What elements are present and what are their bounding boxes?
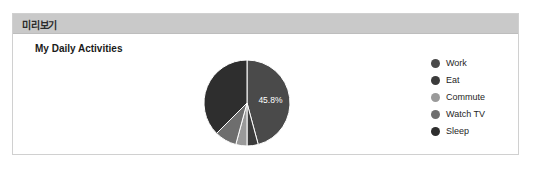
legend-swatch-icon — [431, 127, 440, 136]
pie-chart: 45.8% — [191, 53, 303, 153]
legend-item-label: Sleep — [446, 127, 469, 136]
chart-legend: WorkEatCommuteWatch TVSleep — [431, 55, 526, 140]
legend-item-label: Work — [446, 59, 467, 68]
screenshot-root: 미리보기 My Daily Activities 45.8% WorkEatCo… — [0, 0, 533, 170]
pie-chart-svg: 45.8% — [191, 53, 303, 153]
legend-swatch-icon — [431, 59, 440, 68]
panel-body: My Daily Activities 45.8% WorkEatCommute… — [13, 35, 518, 154]
legend-swatch-icon — [431, 110, 440, 119]
legend-item[interactable]: Eat — [431, 72, 526, 89]
legend-item[interactable]: Sleep — [431, 123, 526, 140]
legend-item-label: Eat — [446, 76, 460, 85]
panel-header-title: 미리보기 — [22, 17, 57, 32]
legend-item-label: Watch TV — [446, 110, 485, 119]
legend-swatch-icon — [431, 93, 440, 102]
pie-slice-label: 45.8% — [258, 95, 283, 105]
legend-item[interactable]: Commute — [431, 89, 526, 106]
legend-item-label: Commute — [446, 93, 485, 102]
legend-swatch-icon — [431, 76, 440, 85]
panel-header: 미리보기 — [13, 14, 518, 34]
preview-panel: 미리보기 My Daily Activities 45.8% WorkEatCo… — [12, 13, 519, 155]
legend-item[interactable]: Work — [431, 55, 526, 72]
legend-item[interactable]: Watch TV — [431, 106, 526, 123]
chart-title: My Daily Activities — [35, 43, 122, 54]
